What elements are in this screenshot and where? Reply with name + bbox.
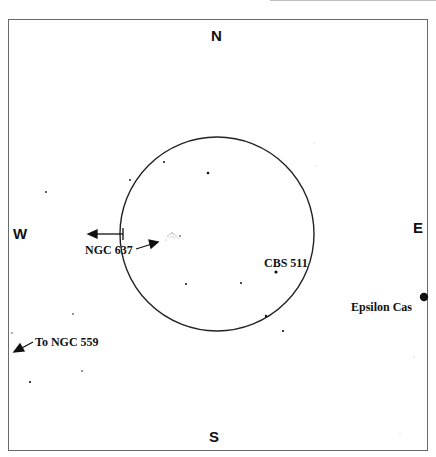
west-label: W [13, 225, 27, 242]
star-icon [240, 282, 242, 284]
star-icon [314, 143, 315, 144]
ngc559-direction-arrow-icon [14, 342, 33, 352]
star-icon [163, 161, 165, 163]
west-arrow-icon [88, 228, 123, 240]
star-icon [29, 381, 31, 383]
ngc637-pointer-arrow-icon [136, 240, 158, 249]
finder-chart: N S W E NGC 637 CBS 511 Epsilon Cas To N… [0, 0, 436, 457]
ngc637-cluster-icon [165, 232, 178, 240]
south-label: S [209, 428, 219, 445]
star-icon [207, 172, 210, 175]
star-icon [129, 179, 131, 181]
star-icon [414, 357, 415, 358]
star-icon [11, 332, 12, 333]
epsilon-cas-label: Epsilon Cas [351, 300, 412, 315]
east-label: E [413, 219, 423, 236]
cbs511-label: CBS 511 [264, 256, 308, 271]
ngc637-label: NGC 637 [85, 243, 133, 258]
star-icon [316, 166, 317, 167]
ngc559-label: To NGC 559 [35, 335, 99, 350]
star-field [11, 143, 428, 435]
star-icon [282, 330, 284, 332]
star-icon [400, 434, 401, 435]
star-icon [265, 315, 267, 317]
star-icon [72, 313, 74, 315]
north-label: N [211, 27, 222, 44]
star-icon [179, 235, 181, 237]
star-icon [185, 283, 187, 285]
chart-graphics [0, 0, 436, 457]
star-icon [420, 293, 428, 301]
star-icon [45, 191, 47, 193]
field-of-view-circle [120, 137, 314, 331]
star-icon [81, 370, 83, 372]
